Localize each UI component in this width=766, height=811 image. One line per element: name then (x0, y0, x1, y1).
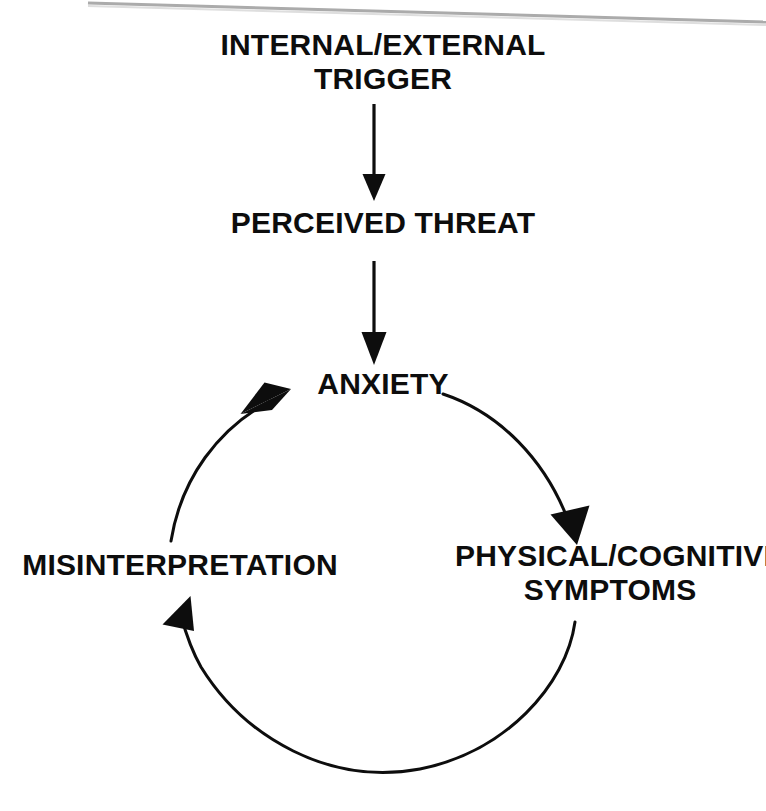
arrow-symptoms-to-misinterpretation (163, 596, 576, 772)
arrow-threat-to-anxiety (362, 261, 387, 365)
diagram-graphics (0, 0, 766, 811)
arrow-trigger-to-threat (363, 104, 386, 201)
arrow-anxiety-to-symptoms (443, 394, 590, 545)
scan-edge-artifact-soft (88, 6, 766, 25)
node-label-misinterpretation: MISINTERPRETATION (20, 548, 340, 582)
node-label-trigger: INTERNAL/EXTERNAL TRIGGER (133, 28, 633, 95)
node-label-perceived-threat: PERCEIVED THREAT (133, 206, 633, 240)
scan-edge-artifact (88, 3, 766, 22)
arrow-misinterpretation-to-anxiety (171, 383, 291, 542)
diagram-canvas: INTERNAL/EXTERNAL TRIGGER PERCEIVED THRE… (0, 0, 766, 811)
node-label-physical-cognitive-symptoms: PHYSICAL/COGNITIVE SYMPTOMS (455, 539, 765, 606)
node-label-anxiety: ANXIETY (233, 367, 533, 401)
